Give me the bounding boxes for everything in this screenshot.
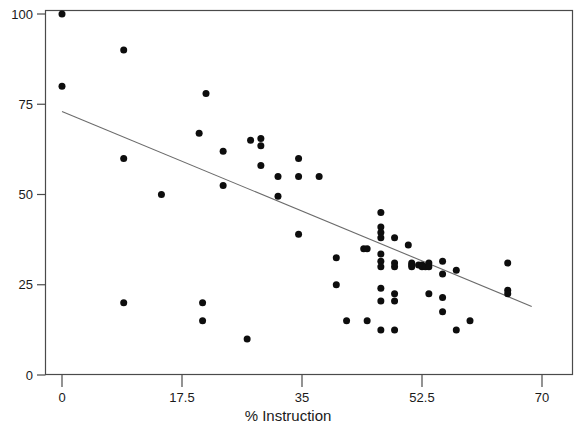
data-point (364, 245, 371, 252)
data-point (408, 263, 415, 270)
data-point (377, 234, 384, 241)
data-point (377, 285, 384, 292)
data-point (333, 254, 340, 261)
x-tick-label: 35 (295, 390, 309, 405)
data-point (220, 182, 227, 189)
x-tick-label: 0 (58, 390, 65, 405)
data-point (316, 173, 323, 180)
data-point (377, 251, 384, 258)
data-point (257, 135, 264, 142)
data-point (257, 142, 264, 149)
plot-canvas: 0255075100 017.53552.570 % Instruction (0, 0, 578, 432)
x-tick-label: 70 (535, 390, 549, 405)
data-point (377, 263, 384, 270)
data-point (377, 298, 384, 305)
data-point (405, 242, 412, 249)
data-point (275, 173, 282, 180)
scatter-plot-figure: 0255075100 017.53552.570 % Instruction (0, 0, 578, 432)
data-point (244, 335, 251, 342)
data-point (275, 193, 282, 200)
data-point (504, 260, 511, 267)
x-tick-label: 52.5 (409, 390, 434, 405)
data-point (391, 263, 398, 270)
data-point (391, 298, 398, 305)
data-point (439, 258, 446, 265)
data-point (257, 162, 264, 169)
data-point (295, 231, 302, 238)
data-point (391, 234, 398, 241)
data-point (467, 317, 474, 324)
data-point (453, 326, 460, 333)
data-point (158, 191, 165, 198)
data-point (377, 209, 384, 216)
y-tick-label: 50 (19, 187, 33, 202)
data-point (377, 326, 384, 333)
y-tick-label: 100 (11, 7, 33, 22)
data-point (120, 155, 127, 162)
data-point (196, 130, 203, 137)
data-point (333, 281, 340, 288)
data-point (203, 90, 210, 97)
y-tick-label: 0 (26, 368, 33, 383)
data-point (439, 270, 446, 277)
plot-background (0, 0, 578, 432)
data-point (59, 11, 66, 18)
data-point (199, 299, 206, 306)
data-point (120, 299, 127, 306)
data-point (295, 155, 302, 162)
data-point (425, 263, 432, 270)
data-point (295, 173, 302, 180)
data-point (439, 308, 446, 315)
y-tick-label: 25 (19, 277, 33, 292)
data-point (391, 290, 398, 297)
data-point (120, 47, 127, 54)
data-point (425, 290, 432, 297)
data-point (59, 83, 66, 90)
data-point (220, 148, 227, 155)
x-axis-title: % Instruction (245, 407, 332, 424)
data-point (343, 317, 350, 324)
data-point (504, 290, 511, 297)
data-point (364, 317, 371, 324)
data-point (391, 326, 398, 333)
y-tick-label: 75 (19, 97, 33, 112)
data-point (439, 294, 446, 301)
data-point (247, 137, 254, 144)
x-tick-label: 17.5 (169, 390, 194, 405)
data-point (199, 317, 206, 324)
data-point (453, 267, 460, 274)
